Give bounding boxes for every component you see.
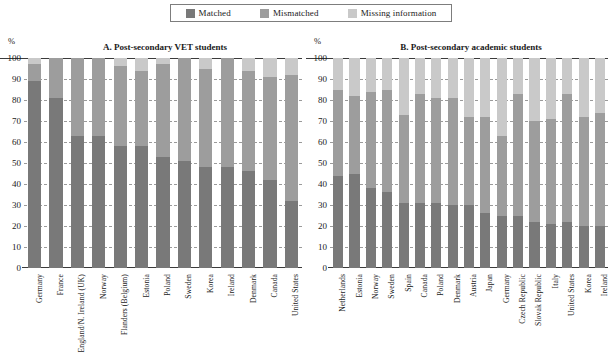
bar-segment-missing-information	[480, 58, 490, 117]
stacked-bar[interactable]	[178, 58, 191, 268]
x-axis-tick-label: Flanders (Belgium)	[120, 274, 129, 335]
stacked-bar[interactable]	[92, 58, 105, 268]
x-axis-tick-label: Poland	[163, 274, 172, 296]
legend-label: Missing information	[361, 8, 437, 18]
bar-segment-matched	[399, 203, 409, 268]
stacked-bar[interactable]	[285, 58, 298, 268]
x-label-slot: Canada	[412, 272, 428, 354]
stacked-bar[interactable]	[562, 58, 572, 268]
bar-segment-matched	[382, 192, 392, 268]
bar-segment-mismatched	[263, 77, 276, 180]
stacked-bar[interactable]	[399, 58, 409, 268]
x-label-slot: Spain	[395, 272, 411, 354]
stacked-bar[interactable]	[546, 58, 556, 268]
x-axis-tick-label: Sweden	[184, 274, 193, 299]
stacked-bar[interactable]	[513, 58, 523, 268]
stacked-bar[interactable]	[333, 58, 343, 268]
y-axis-tick-label: 20	[318, 221, 327, 231]
x-axis-labels-a: GermanyFranceEngland/N. Ireland (UK)Norw…	[24, 272, 302, 354]
x-label-slot: Korea	[575, 272, 591, 354]
y-axis-tick-label: 0	[17, 263, 22, 273]
x-label-slot: Germany	[494, 272, 510, 354]
chart-legend: Matched Mismatched Missing information	[170, 4, 452, 22]
bar-segment-mismatched	[349, 96, 359, 174]
bar-slot	[346, 58, 362, 268]
bar-slot	[428, 58, 444, 268]
square-swatch-icon	[186, 9, 195, 18]
bar-group-b	[330, 58, 608, 268]
bar-segment-missing-information	[399, 58, 409, 115]
y-axis-tick-label: 10	[12, 242, 21, 252]
bar-segment-matched	[178, 161, 191, 268]
bar-segment-matched	[92, 136, 105, 268]
stacked-bar[interactable]	[221, 58, 234, 268]
y-axis-tick-label: 100	[314, 53, 328, 63]
x-axis-tick-label: Norway	[99, 274, 108, 299]
bar-segment-missing-information	[529, 58, 539, 121]
stacked-bar[interactable]	[448, 58, 458, 268]
stacked-bar[interactable]	[366, 58, 376, 268]
bar-segment-missing-information	[114, 58, 127, 66]
bar-slot	[526, 58, 542, 268]
x-label-slot: Japan	[477, 272, 493, 354]
bar-segment-matched	[415, 203, 425, 268]
bar-segment-missing-information	[431, 58, 441, 98]
bar-slot	[494, 58, 510, 268]
stacked-bar[interactable]	[156, 58, 169, 268]
stacked-bar[interactable]	[382, 58, 392, 268]
x-axis-tick-label: Canada	[270, 274, 279, 297]
stacked-bar[interactable]	[595, 58, 605, 268]
stacked-bar[interactable]	[464, 58, 474, 268]
bar-segment-mismatched	[546, 119, 556, 224]
stacked-bar[interactable]	[71, 58, 84, 268]
x-label-slot: Norway	[88, 272, 109, 354]
bar-segment-mismatched	[497, 136, 507, 216]
stacked-bar[interactable]	[28, 58, 41, 268]
stacked-bar[interactable]	[199, 58, 212, 268]
x-label-slot: Sweden	[174, 272, 195, 354]
bar-segment-matched	[562, 222, 572, 268]
square-swatch-icon	[260, 9, 269, 18]
stacked-bar[interactable]	[497, 58, 507, 268]
bar-segment-matched	[513, 216, 523, 269]
bar-slot	[238, 58, 259, 268]
bar-slot	[67, 58, 88, 268]
stacked-bar[interactable]	[480, 58, 490, 268]
y-axis-tick-label: 70	[318, 116, 327, 126]
y-axis-tick-label: 80	[12, 95, 21, 105]
bar-segment-missing-information	[595, 58, 605, 113]
bar-segment-missing-information	[546, 58, 556, 119]
bar-segment-matched	[497, 216, 507, 269]
stacked-bar[interactable]	[415, 58, 425, 268]
x-label-slot: Estonia	[346, 272, 362, 354]
bar-slot	[195, 58, 216, 268]
bar-segment-mismatched	[529, 121, 539, 222]
stacked-bar[interactable]	[263, 58, 276, 268]
bar-slot	[174, 58, 195, 268]
bar-slot	[592, 58, 608, 268]
bar-segment-missing-information	[448, 58, 458, 98]
plot-area-a: 1009080706050403020100	[24, 58, 302, 268]
stacked-bar[interactable]	[135, 58, 148, 268]
stacked-bar[interactable]	[114, 58, 127, 268]
bar-segment-matched	[595, 226, 605, 268]
chart-panel-a: % A. Post-secondary VET students 1009080…	[0, 36, 306, 336]
stacked-bar[interactable]	[579, 58, 589, 268]
bar-segment-missing-information	[333, 58, 343, 90]
x-label-slot: England/N. Ireland (UK)	[67, 272, 88, 354]
bar-slot	[131, 58, 152, 268]
x-label-slot: Sweden	[379, 272, 395, 354]
stacked-bar[interactable]	[529, 58, 539, 268]
bar-segment-matched	[333, 176, 343, 268]
bar-segment-mismatched	[178, 58, 191, 161]
bar-segment-mismatched	[366, 92, 376, 189]
x-label-slot: Italy	[543, 272, 559, 354]
stacked-bar[interactable]	[242, 58, 255, 268]
stacked-bar[interactable]	[349, 58, 359, 268]
bar-segment-mismatched	[480, 117, 490, 214]
stacked-bar[interactable]	[431, 58, 441, 268]
y-axis-tick-label: 90	[12, 74, 21, 84]
bar-segment-missing-information	[415, 58, 425, 94]
bar-segment-mismatched	[114, 66, 127, 146]
stacked-bar[interactable]	[49, 58, 62, 268]
